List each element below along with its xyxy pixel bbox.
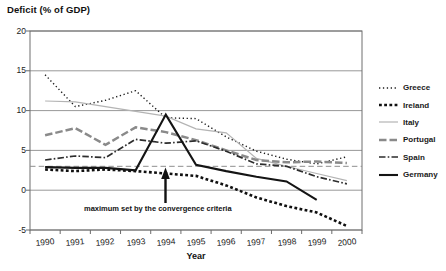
legend-line-sample-spain bbox=[379, 151, 398, 163]
x-tick-label-1993: 1993 bbox=[126, 236, 146, 248]
x-tick-label-1999: 1999 bbox=[307, 236, 327, 248]
x-tick-label-1995: 1995 bbox=[186, 236, 206, 248]
legend-item-greece: Greece bbox=[379, 79, 438, 96]
legend-label-spain: Spain bbox=[403, 153, 425, 162]
annotation-arrow-head bbox=[161, 168, 170, 180]
series-line-portugal bbox=[45, 127, 347, 163]
series-line-ireland bbox=[45, 170, 347, 227]
legend-label-germany: Germany bbox=[403, 170, 438, 179]
legend-line-sample-portugal bbox=[379, 134, 398, 146]
x-tick-label-1991: 1991 bbox=[65, 236, 85, 248]
y-tick-label--5: -5 bbox=[0, 225, 26, 236]
convergence-annotation: maximum set by the convergence criteria bbox=[84, 204, 232, 213]
y-tick-label-20: 20 bbox=[0, 26, 26, 37]
legend-label-greece: Greece bbox=[403, 83, 430, 92]
legend-item-ireland: Ireland bbox=[379, 96, 438, 113]
x-tick-label-1992: 1992 bbox=[96, 236, 116, 248]
legend-item-portugal: Portugal bbox=[379, 131, 438, 148]
x-tick-label-1997: 1997 bbox=[246, 236, 266, 248]
x-tick-label-2000: 2000 bbox=[337, 236, 357, 248]
x-tick-label-1994: 1994 bbox=[156, 236, 176, 248]
legend-item-germany: Germany bbox=[379, 166, 438, 183]
legend: GreeceIrelandItalyPortugalSpainGermany bbox=[379, 79, 438, 183]
y-tick-label-5: 5 bbox=[0, 145, 26, 156]
x-tick-label-1996: 1996 bbox=[216, 236, 236, 248]
deficit-chart-figure: Deficit (% of GDP) 20151050-5 1990199119… bbox=[0, 0, 446, 271]
legend-item-italy: Italy bbox=[379, 114, 438, 131]
y-tick-label-10: 10 bbox=[0, 105, 26, 116]
x-tick-label-1998: 1998 bbox=[277, 236, 297, 248]
legend-line-sample-italy bbox=[379, 116, 398, 128]
x-axis-title: Year bbox=[30, 251, 362, 261]
legend-label-ireland: Ireland bbox=[403, 101, 429, 110]
legend-label-italy: Italy bbox=[403, 118, 419, 127]
legend-line-sample-germany bbox=[379, 169, 398, 181]
legend-line-sample-ireland bbox=[379, 99, 398, 111]
legend-line-sample-greece bbox=[379, 82, 398, 94]
legend-item-spain: Spain bbox=[379, 149, 438, 166]
x-tick-label-1990: 1990 bbox=[35, 236, 55, 248]
legend-label-portugal: Portugal bbox=[403, 135, 435, 144]
chart-title: Deficit (% of GDP) bbox=[7, 4, 90, 15]
y-tick-label-0: 0 bbox=[0, 185, 26, 196]
y-tick-label-15: 15 bbox=[0, 65, 26, 76]
